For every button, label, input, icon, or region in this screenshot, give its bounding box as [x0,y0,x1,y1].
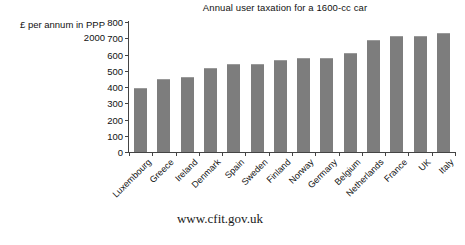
bar [204,68,217,152]
y-tick-mark [125,120,129,121]
chart-figure: Annual user taxation for a 1600-cc car £… [0,0,465,245]
x-tick-mark [269,152,270,156]
y-tick-label: 300 [107,98,123,109]
x-tick-mark [432,152,433,156]
x-tick-mark [152,152,153,156]
bar [134,88,147,152]
y-tick-mark [125,103,129,104]
bar [157,79,170,152]
y-tick-label: 100 [107,130,123,141]
x-tick-mark [339,152,340,156]
y-tick-mark [125,87,129,88]
x-tick-label: Italy [437,157,456,176]
bar [390,36,403,152]
x-tick-mark [408,152,409,156]
x-tick-mark [385,152,386,156]
bar [320,58,333,152]
y-tick-label: 0 [118,147,123,158]
x-tick-mark [245,152,246,156]
footer-url: www.cfit.gov.uk [0,211,440,227]
x-tick-mark [199,152,200,156]
bar [274,60,287,152]
x-tick-label: UK [416,157,432,173]
y-axis-label-line-2: 2000 [2,32,105,45]
bar [437,33,450,152]
bar [297,58,310,152]
y-tick-label: 700 [107,33,123,44]
bar [344,53,357,152]
bar [367,40,380,152]
plot-area: 0100200300400500600700800 [129,22,455,152]
y-tick-label: 500 [107,65,123,76]
y-tick-label: 800 [107,17,123,28]
x-tick-mark [315,152,316,156]
x-tick-mark [129,152,130,156]
y-axis-label: £ per annum in PPP 2000 [2,19,105,44]
y-tick-label: 600 [107,49,123,60]
chart-title: Annual user taxation for a 1600-cc car [150,2,420,13]
x-tick-mark [176,152,177,156]
bar [181,77,194,152]
bar [414,36,427,152]
y-tick-label: 200 [107,114,123,125]
x-tick-mark [455,152,456,156]
y-tick-mark [125,22,129,23]
bar [227,64,240,152]
x-tick-label: Greece [148,157,176,185]
x-tick-mark [222,152,223,156]
y-tick-mark [125,136,129,137]
x-tick-mark [362,152,363,156]
x-tick-mark [292,152,293,156]
x-tick-label: Luxembourg [110,157,152,199]
y-tick-mark [125,55,129,56]
y-axis-label-line-1: £ per annum in PPP [2,19,105,32]
y-tick-label: 400 [107,82,123,93]
y-tick-mark [125,38,129,39]
y-tick-mark [125,71,129,72]
bar [251,64,264,152]
x-tick-label: France [382,157,409,184]
